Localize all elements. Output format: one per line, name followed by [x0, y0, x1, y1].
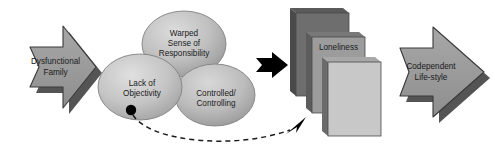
dashed-feedback-arrowhead — [286, 117, 306, 134]
input-arrow-label-line2: Family — [43, 68, 68, 77]
card-middle-top — [306, 32, 365, 37]
outcome-card-middle-label: Loneliness — [319, 43, 358, 52]
card-front-face — [328, 62, 381, 136]
card-back-top — [290, 8, 349, 13]
black-solid-arrow — [256, 52, 288, 78]
ellipse-warped-label-line1: Warped — [170, 29, 199, 38]
ellipse-lack-of-objectivity: Lack of Objectivity — [98, 54, 182, 120]
card-front-top — [322, 57, 381, 62]
output-arrow-label-line2: Life-style — [415, 73, 448, 82]
diagram-canvas: Dysfunctional Family Warped Sense of Res… — [0, 0, 495, 155]
black-solid-arrow-shape — [256, 52, 288, 78]
input-arrow-dysfunctional-family: Dysfunctional Family — [30, 26, 102, 114]
ellipse-warped-label-line2: Sense of — [168, 39, 201, 48]
card-front-edge — [322, 57, 328, 136]
input-arrow-label-line1: Dysfunctional — [31, 57, 80, 66]
output-arrow-codependent-lifestyle: Codependent Life-style — [400, 27, 490, 123]
ellipse-controlled-label-line1: Controlled/ — [196, 89, 236, 98]
ellipse-lack-label-line1: Lack of — [129, 79, 156, 88]
ellipse-lack-label-line2: Objectivity — [123, 89, 162, 98]
ellipse-controlled-label-line2: Controlling — [196, 99, 236, 108]
diagram-svg: Dysfunctional Family Warped Sense of Res… — [0, 0, 495, 155]
ellipse-controlled-controlling: Controlled/ Controlling — [175, 64, 255, 126]
card-back-edge — [290, 8, 296, 96]
card-middle-edge — [306, 32, 312, 113]
output-arrow-label-line1: Codependent — [406, 62, 456, 71]
ellipse-warped-label-line3: Responsibility — [159, 49, 210, 58]
black-dot-marker — [126, 105, 136, 115]
outcome-card-front — [322, 57, 381, 136]
